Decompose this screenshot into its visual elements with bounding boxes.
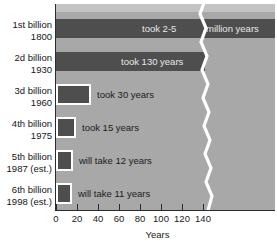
category-label-line1: 6th billion — [0, 184, 52, 196]
bar-value-label-3d-billion: took 30 years — [97, 85, 154, 104]
bar-row: took 15 years — [56, 111, 275, 144]
bar-row: took 130 years — [56, 45, 275, 78]
category-label-2d-billion: 2d billion 1930 — [0, 52, 52, 75]
category-label-line2: 1987 (est.) — [0, 163, 52, 175]
x-tick-60 — [119, 204, 120, 211]
category-label-line1: 2d billion — [0, 52, 52, 64]
plot-panel: took 2-5 million years took 130 years to… — [56, 4, 275, 210]
category-label-4th-billion: 4th billion 1975 — [0, 118, 52, 141]
x-tick-100 — [161, 204, 162, 211]
population-growth-bar-chart: took 2-5 million years took 130 years to… — [0, 0, 277, 245]
bar-value-label-4th-billion: took 15 years — [82, 118, 139, 137]
category-label-line2: 1998 (est.) — [0, 196, 52, 208]
category-label-line2: 1960 — [0, 97, 52, 109]
bar-6th-billion — [56, 183, 72, 204]
x-tick-80 — [140, 204, 141, 211]
x-tick-140 — [203, 204, 204, 211]
bar-row: will take 12 years — [56, 144, 275, 177]
x-axis-title: Years — [0, 229, 277, 240]
x-tick-40 — [98, 204, 99, 211]
category-label-6th-billion: 6th billion 1998 (est.) — [0, 184, 52, 207]
x-tick-label-140: 140 — [191, 213, 215, 224]
category-label-5th-billion: 5th billion 1987 (est.) — [0, 151, 52, 174]
bar-value-label-1st-billion-part1: took 2-5 — [142, 19, 176, 38]
bar-5th-billion — [56, 150, 73, 171]
y-axis-line — [55, 4, 56, 211]
plot-area: took 2-5 million years took 130 years to… — [56, 12, 275, 210]
bar-row: took 30 years — [56, 78, 275, 111]
category-label-1st-billion: 1st billion 1800 — [0, 19, 52, 42]
x-tick-0 — [56, 204, 57, 211]
bar-row: will take 11 years — [56, 177, 275, 210]
category-label-3d-billion: 3d billion 1960 — [0, 85, 52, 108]
x-tick-20 — [77, 204, 78, 211]
bar-row: took 2-5 million years — [56, 12, 275, 45]
bar-value-label-5th-billion: will take 12 years — [79, 151, 152, 170]
bar-value-label-6th-billion: will take 11 years — [78, 184, 150, 203]
category-label-line1: 4th billion — [0, 118, 52, 130]
category-label-line2: 1975 — [0, 130, 52, 142]
bar-value-label-2d-billion: took 130 years — [121, 52, 183, 71]
bar-value-label-1st-billion-part2: million years — [206, 19, 259, 38]
bar-3d-billion — [56, 84, 91, 105]
x-tick-120 — [182, 204, 183, 211]
category-label-line1: 1st billion — [0, 19, 52, 31]
category-label-line1: 5th billion — [0, 151, 52, 163]
category-label-line2: 1930 — [0, 64, 52, 76]
category-label-line1: 3d billion — [0, 85, 52, 97]
bar-4th-billion — [56, 117, 76, 138]
category-label-line2: 1800 — [0, 31, 52, 43]
x-axis-line — [55, 210, 275, 211]
